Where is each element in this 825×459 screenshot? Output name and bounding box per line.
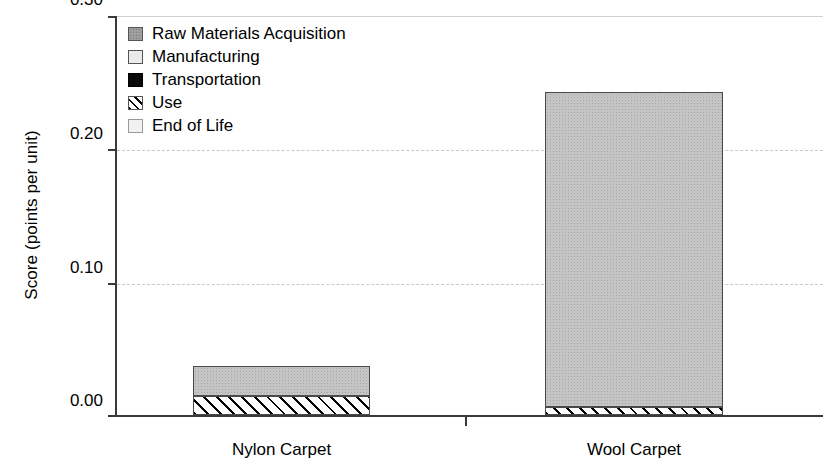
bar-segment-raw-materials-wool[interactable]: [545, 92, 723, 407]
x-tick-mark-divider: [465, 417, 467, 426]
legend-item-transportation[interactable]: Transportation: [128, 68, 428, 91]
gridline-030: [117, 16, 823, 17]
y-tick-label-020: 0.20: [47, 125, 103, 142]
legend-label-manufacturing: Manufacturing: [152, 48, 260, 65]
bar-segment-use-nylon[interactable]: [193, 396, 370, 415]
chart-container: Score (points per unit) 0.30 0.20 0.10 0…: [0, 0, 825, 459]
legend-swatch-icon-end-of-life: [128, 119, 143, 133]
y-tick-label-030: 0.30: [47, 0, 103, 8]
bar-nylon-carpet[interactable]: [193, 366, 370, 415]
y-tick-mark-000: [108, 415, 117, 417]
y-tick-mark-030: [108, 16, 117, 18]
y-axis-title: Score (points per unit): [22, 85, 42, 345]
legend-label-use: Use: [152, 94, 182, 111]
y-axis-tick-labels: 0.30 0.20 0.10 0.00: [45, 0, 103, 401]
chart-legend: Raw Materials Acquisition Manufacturing …: [128, 22, 428, 137]
bar-segment-use-wool[interactable]: [545, 407, 723, 415]
legend-item-manufacturing[interactable]: Manufacturing: [128, 45, 428, 68]
legend-label-transportation: Transportation: [152, 71, 261, 88]
x-tick-label-nylon-carpet: Nylon Carpet: [193, 440, 370, 459]
bar-segment-raw-materials-nylon[interactable]: [193, 366, 370, 396]
y-tick-mark-020: [108, 149, 117, 151]
x-tick-label-wool-carpet: Wool Carpet: [545, 440, 723, 459]
y-axis-line: [115, 16, 117, 417]
legend-item-use[interactable]: Use: [128, 91, 428, 114]
legend-label-raw-materials: Raw Materials Acquisition: [152, 25, 346, 42]
legend-swatch-icon-transportation: [128, 73, 143, 87]
legend-item-end-of-life[interactable]: End of Life: [128, 114, 428, 137]
legend-swatch-icon-raw-materials: [128, 27, 143, 41]
x-axis-line: [115, 415, 823, 417]
legend-swatch-icon-use: [128, 96, 143, 110]
bar-wool-carpet[interactable]: [545, 92, 723, 415]
y-tick-mark-010: [108, 283, 117, 285]
legend-swatch-icon-manufacturing: [128, 50, 143, 64]
legend-label-end-of-life: End of Life: [152, 117, 233, 134]
legend-item-raw-materials-acquisition[interactable]: Raw Materials Acquisition: [128, 22, 428, 45]
y-tick-label-000: 0.00: [47, 392, 103, 409]
y-tick-label-010: 0.10: [47, 259, 103, 276]
